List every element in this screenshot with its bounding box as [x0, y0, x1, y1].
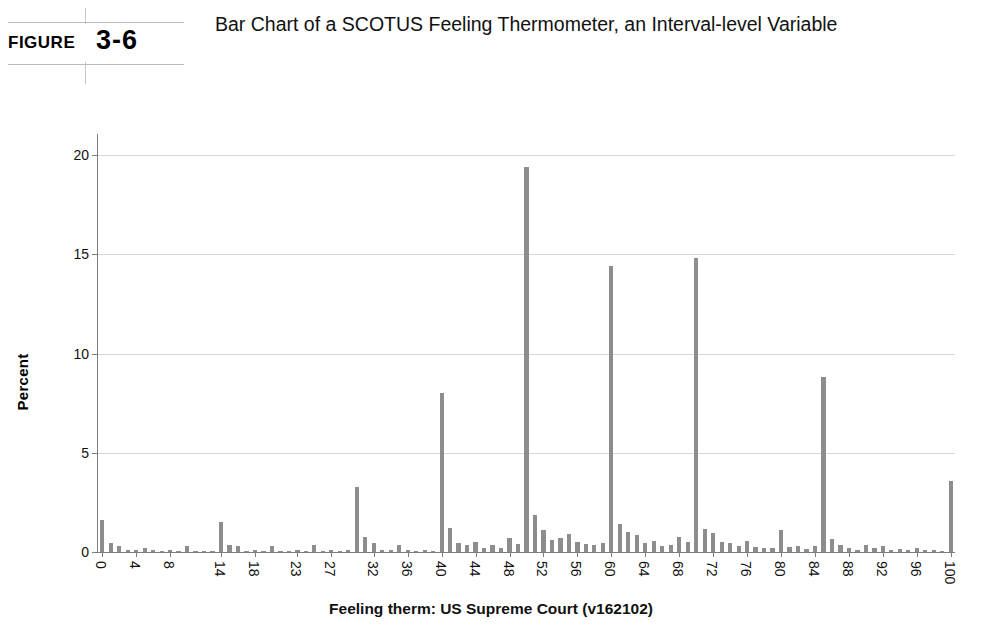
bar — [677, 537, 681, 552]
bar — [686, 542, 690, 552]
bar — [737, 546, 741, 552]
x-tick-label-32: 32 — [366, 561, 380, 577]
x-tick-label-40: 40 — [434, 561, 448, 577]
x-tick-label-100: 100 — [943, 561, 957, 584]
x-tick-label-60: 60 — [603, 561, 617, 577]
bar — [524, 167, 528, 552]
bar — [338, 551, 342, 552]
bar — [431, 551, 435, 552]
bar — [210, 551, 214, 552]
x-tick-mark-18 — [255, 553, 256, 557]
x-tick-mark-72 — [713, 553, 714, 557]
bar — [193, 551, 197, 552]
y-tick-label-5: 5 — [49, 446, 89, 460]
bar — [609, 266, 613, 552]
x-tick-mark-27 — [331, 553, 332, 557]
bar — [473, 542, 477, 552]
bar — [855, 550, 859, 552]
bar — [440, 393, 444, 552]
bar — [541, 530, 545, 552]
x-tick-mark-84 — [815, 553, 816, 557]
bar — [821, 377, 825, 552]
bar — [287, 551, 291, 552]
bar — [134, 550, 138, 552]
bars-series — [98, 134, 955, 552]
bar — [423, 550, 427, 552]
y-tick-label-15: 15 — [49, 247, 89, 261]
x-tick-mark-0 — [102, 553, 103, 557]
bar — [507, 538, 511, 552]
bar — [456, 543, 460, 552]
bar — [906, 550, 910, 552]
bar — [499, 548, 503, 552]
badge-rule-top — [8, 22, 184, 23]
bar — [168, 550, 172, 552]
x-tick-label-27: 27 — [323, 561, 337, 577]
x-tick-mark-36 — [408, 553, 409, 557]
bar — [753, 547, 757, 552]
bar — [770, 548, 774, 552]
badge-rule-bottom — [8, 64, 184, 65]
bar — [575, 542, 579, 552]
bar — [346, 550, 350, 552]
x-tick-label-88: 88 — [841, 561, 855, 577]
x-tick-label-14: 14 — [213, 561, 227, 577]
bar — [363, 537, 367, 552]
bar-chart: Percent 05101520 04814182327323640444852… — [0, 96, 982, 632]
bar — [244, 551, 248, 552]
x-tick-label-4: 4 — [128, 561, 142, 569]
x-tick-label-56: 56 — [569, 561, 583, 577]
figure-label: FIGURE — [8, 32, 75, 54]
x-tick-mark-92 — [883, 553, 884, 557]
bar — [176, 551, 180, 552]
y-tick-label-10: 10 — [49, 347, 89, 361]
x-tick-label-64: 64 — [637, 561, 651, 577]
bar — [185, 546, 189, 552]
bar — [516, 544, 520, 552]
bar — [109, 543, 113, 552]
x-tick-label-8: 8 — [162, 561, 176, 569]
bar — [745, 541, 749, 552]
bar — [881, 546, 885, 552]
x-tick-mark-88 — [849, 553, 850, 557]
x-tick-label-96: 96 — [909, 561, 923, 577]
bar — [490, 545, 494, 552]
y-tick-label-0: 0 — [49, 545, 89, 559]
bar — [550, 540, 554, 552]
x-tick-label-0: 0 — [94, 561, 108, 569]
bar — [380, 550, 384, 552]
bar — [448, 528, 452, 552]
bar — [329, 550, 333, 552]
bar — [720, 542, 724, 552]
bar — [261, 551, 265, 552]
bar — [584, 544, 588, 552]
bar — [660, 546, 664, 552]
bar — [703, 529, 707, 552]
x-tick-label-23: 23 — [289, 561, 303, 577]
bar — [558, 538, 562, 552]
bar — [779, 530, 783, 552]
bar — [312, 545, 316, 552]
bar — [406, 550, 410, 552]
y-tick-mark-10 — [92, 354, 97, 355]
x-tick-mark-14 — [221, 553, 222, 557]
bar — [669, 545, 673, 552]
bar — [355, 487, 359, 553]
bar — [838, 545, 842, 552]
bar — [100, 520, 104, 552]
y-tick-mark-0 — [92, 552, 97, 553]
bar — [618, 524, 622, 552]
bar — [414, 551, 418, 552]
bar — [278, 551, 282, 552]
bar — [270, 546, 274, 552]
bar — [533, 515, 537, 552]
bar — [372, 543, 376, 552]
bar — [465, 545, 469, 552]
figure-number: 3-6 — [96, 24, 138, 56]
bar — [940, 551, 944, 552]
x-tick-mark-80 — [781, 553, 782, 557]
bar — [592, 545, 596, 552]
y-tick-mark-5 — [92, 453, 97, 454]
x-tick-mark-40 — [442, 553, 443, 557]
bar — [304, 551, 308, 552]
